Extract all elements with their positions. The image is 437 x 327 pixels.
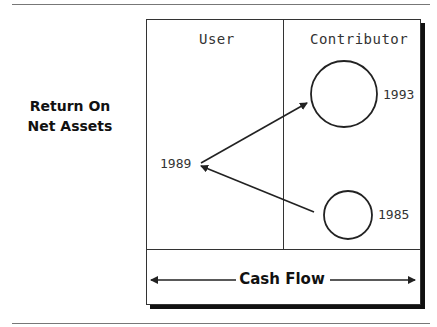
- x-axis-label-cash-flow: Cash Flow: [236, 270, 328, 288]
- node-1989-label: 1989: [160, 156, 191, 171]
- diagram-graphics: [0, 0, 437, 327]
- node-1993-circle: [311, 61, 377, 127]
- node-1985-label: 1985: [378, 207, 409, 222]
- arrow-1985-to-1989: [201, 166, 314, 212]
- node-1985-circle: [324, 191, 372, 239]
- node-1993-label: 1993: [383, 87, 414, 102]
- arrow-1989-to-1993: [201, 103, 307, 163]
